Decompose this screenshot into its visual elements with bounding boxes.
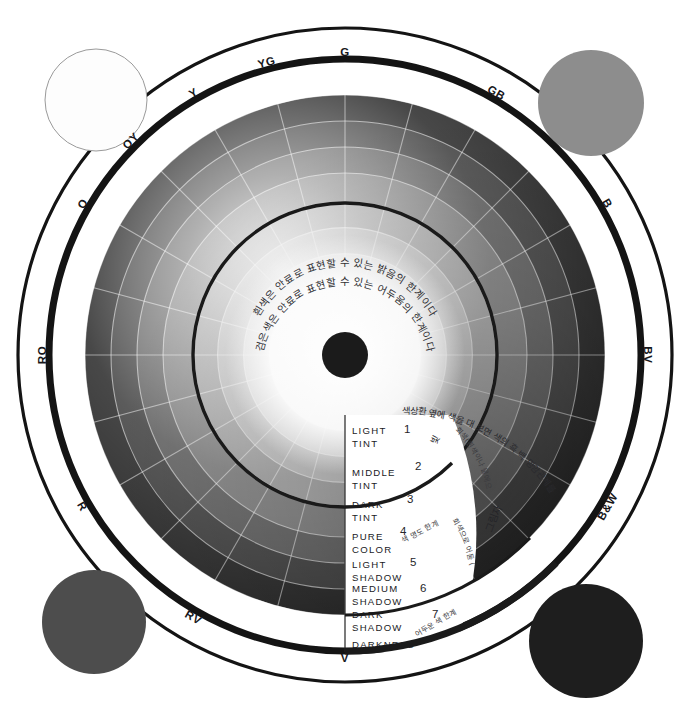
value-row-label-secondary: TINT	[352, 512, 378, 523]
value-row-number: 6	[420, 582, 426, 594]
hue-label-bv: BV	[642, 346, 654, 363]
value-row-number: 1	[404, 423, 410, 435]
value-row-number: 5	[410, 556, 416, 568]
value-row-label-primary: DARK	[352, 499, 384, 510]
value-row-label-secondary: SHADOW	[352, 596, 403, 607]
value-row-label-secondary: TINT	[352, 480, 378, 491]
mid-gray-swatch	[538, 50, 644, 156]
dark-gray-swatch	[42, 570, 146, 674]
hue-label-g: G	[340, 46, 350, 58]
value-row-label-secondary: SHADOW	[352, 572, 403, 583]
value-row-label-secondary: SHADOW	[352, 622, 403, 633]
value-row-label-primary: PURE	[352, 531, 384, 542]
value-row-label-secondary: TINT	[352, 438, 378, 449]
value-row-label-primary: MIDDLE	[352, 467, 396, 478]
color-wheel-figure: GGBBBVB&WVRVRROOOYYYG LIGHTTINT1MIDDLETI…	[0, 0, 687, 724]
value-row-label-primary: DARK	[352, 609, 384, 620]
value-row-label-primary: LIGHT	[352, 425, 387, 436]
value-row-label-secondary: COLOR	[352, 544, 392, 555]
black-swatch	[529, 584, 643, 698]
hue-label-v: V	[341, 652, 349, 664]
hue-label-ro: RO	[36, 346, 48, 365]
value-row-label-primary: LIGHT	[352, 559, 387, 570]
value-row-label-primary: DARKNESS	[352, 639, 415, 650]
center-hub	[322, 332, 368, 378]
value-row-number: 3	[407, 493, 413, 505]
value-row-number: 2	[415, 460, 421, 472]
wheel-svg: GGBBBVB&WVRVRROOOYYYG LIGHTTINT1MIDDLETI…	[0, 0, 687, 724]
value-row-label-primary: MEDIUM	[352, 583, 398, 594]
